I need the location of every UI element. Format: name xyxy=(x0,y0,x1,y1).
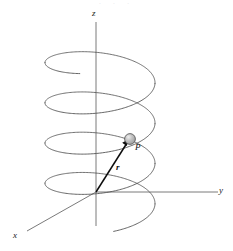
point-p-marker xyxy=(125,134,136,145)
coordinate-axes xyxy=(27,22,218,231)
position-vector-r xyxy=(96,139,129,192)
x-axis xyxy=(27,192,96,231)
point-p-label: P xyxy=(135,143,141,152)
helix-vector-figure: · · · z y x P r xyxy=(0,0,233,251)
vector-shaft xyxy=(96,143,127,192)
x-axis-label: x xyxy=(13,231,17,240)
helix-segment-back xyxy=(45,92,155,124)
helix-segment-back xyxy=(45,172,155,203)
helix-segment-front xyxy=(45,63,80,74)
vector-r-label: r xyxy=(116,163,120,172)
y-axis-label: y xyxy=(219,186,223,195)
helix-segment-front xyxy=(45,163,155,194)
helix-segment-back xyxy=(45,52,155,84)
z-axis-label: z xyxy=(92,9,96,18)
sphere-marker xyxy=(125,134,136,145)
helix-segment-front xyxy=(45,83,155,114)
figure-canvas xyxy=(0,0,233,251)
helix-segment-front xyxy=(114,204,155,231)
